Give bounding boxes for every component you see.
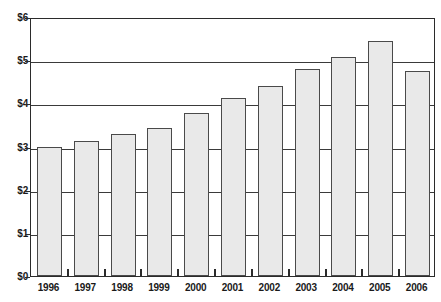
x-axis-label-2006: 2006 xyxy=(398,282,435,293)
x-axis-tick-0 xyxy=(67,269,69,276)
x-axis-tick-9 xyxy=(398,269,400,276)
bar-2005 xyxy=(368,41,393,276)
x-axis-label-2000: 2000 xyxy=(177,282,214,293)
bar-1996 xyxy=(37,147,62,277)
bar-chart: $0$1$2$3$4$5$6 1996199719981999200020012… xyxy=(0,0,441,302)
x-axis-tick-5 xyxy=(251,269,253,276)
x-axis-label-1997: 1997 xyxy=(67,282,104,293)
x-axis-tick-8 xyxy=(361,269,363,276)
bar-2006 xyxy=(405,71,430,276)
x-axis-tick-6 xyxy=(288,269,290,276)
x-axis-label-2001: 2001 xyxy=(214,282,251,293)
y-axis: $0$1$2$3$4$5$6 xyxy=(0,0,28,302)
plot-area xyxy=(30,18,435,277)
bar-2004 xyxy=(331,57,356,276)
bar-2003 xyxy=(295,69,320,276)
bar-2002 xyxy=(258,86,283,276)
x-axis-label-2003: 2003 xyxy=(288,282,325,293)
x-axis-tick-3 xyxy=(177,269,179,276)
y-axis-tick-0 xyxy=(25,277,30,278)
bar-1998 xyxy=(111,134,136,276)
bar-2001 xyxy=(221,98,246,276)
x-axis-label-1999: 1999 xyxy=(140,282,177,293)
x-axis-tick-4 xyxy=(214,269,216,276)
bar-2000 xyxy=(184,113,209,276)
x-axis-tick-1 xyxy=(104,269,106,276)
bar-1997 xyxy=(74,141,99,276)
bar-1999 xyxy=(147,128,172,276)
x-axis-tick-2 xyxy=(140,269,142,276)
x-axis-tick-7 xyxy=(325,269,327,276)
x-axis-label-2005: 2005 xyxy=(361,282,398,293)
x-axis-label-2002: 2002 xyxy=(251,282,288,293)
x-axis-label-1996: 1996 xyxy=(30,282,67,293)
x-axis-label-2004: 2004 xyxy=(325,282,362,293)
x-axis-label-1998: 1998 xyxy=(104,282,141,293)
